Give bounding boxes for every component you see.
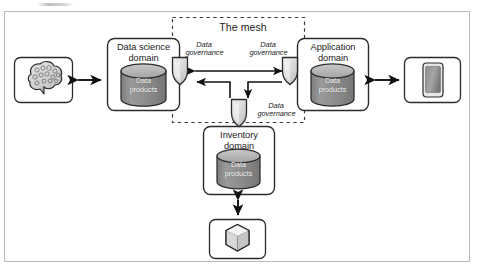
inventory-domain-title-line2: domain	[204, 141, 274, 151]
package-cube-icon	[226, 225, 249, 252]
data-science-domain-title-line1: Data science	[108, 42, 179, 52]
inventory-store-label-line2: products	[208, 170, 269, 178]
source-package-box	[210, 220, 266, 259]
application-domain-title-line1: Application	[298, 42, 368, 52]
governance-bottom-label-line2: governance	[249, 110, 304, 118]
application-store-label-line2: products	[302, 86, 363, 94]
governance-right-shield	[283, 58, 298, 85]
data-science-store-label-line2: products	[113, 86, 174, 94]
mesh-boundary-title: The mesh	[213, 22, 273, 33]
governance-left-label-line2: governance	[177, 49, 232, 57]
arrow-gov-bottom-to-left	[197, 82, 230, 98]
arrow-gov-right-to-bottom	[248, 82, 282, 98]
mobile-phone-icon	[423, 63, 443, 97]
application-domain-title-line2: domain	[298, 53, 368, 63]
inventory-domain-title-line1: Inventory	[204, 130, 274, 140]
diagram-canvas: The mesh Data science domain Data produc…	[0, 0, 477, 278]
consumer-brain-box	[15, 58, 73, 103]
data-science-domain-title-line2: domain	[108, 53, 179, 63]
consumer-mobile-box	[405, 58, 461, 103]
governance-right-label-line2: governance	[241, 49, 296, 57]
